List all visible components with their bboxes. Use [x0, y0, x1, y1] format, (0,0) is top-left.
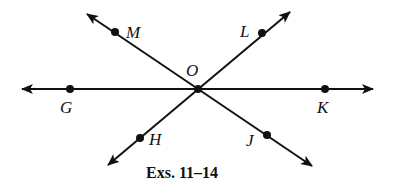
center-point-o — [194, 85, 202, 93]
geometry-diagram: MLGKHJ O Exs. 11–14 — [0, 0, 400, 186]
label-j: J — [246, 131, 255, 150]
label-h: H — [148, 130, 163, 149]
point-j — [263, 131, 271, 139]
label-o: O — [186, 61, 198, 80]
label-k: K — [316, 98, 330, 117]
point-m — [111, 28, 119, 36]
point-h — [136, 134, 144, 142]
label-l: L — [239, 22, 249, 41]
point-l — [258, 29, 266, 37]
label-m: M — [125, 23, 141, 42]
point-g — [66, 85, 74, 93]
label-g: G — [60, 98, 72, 117]
point-k — [321, 85, 329, 93]
caption: Exs. 11–14 — [146, 164, 218, 181]
